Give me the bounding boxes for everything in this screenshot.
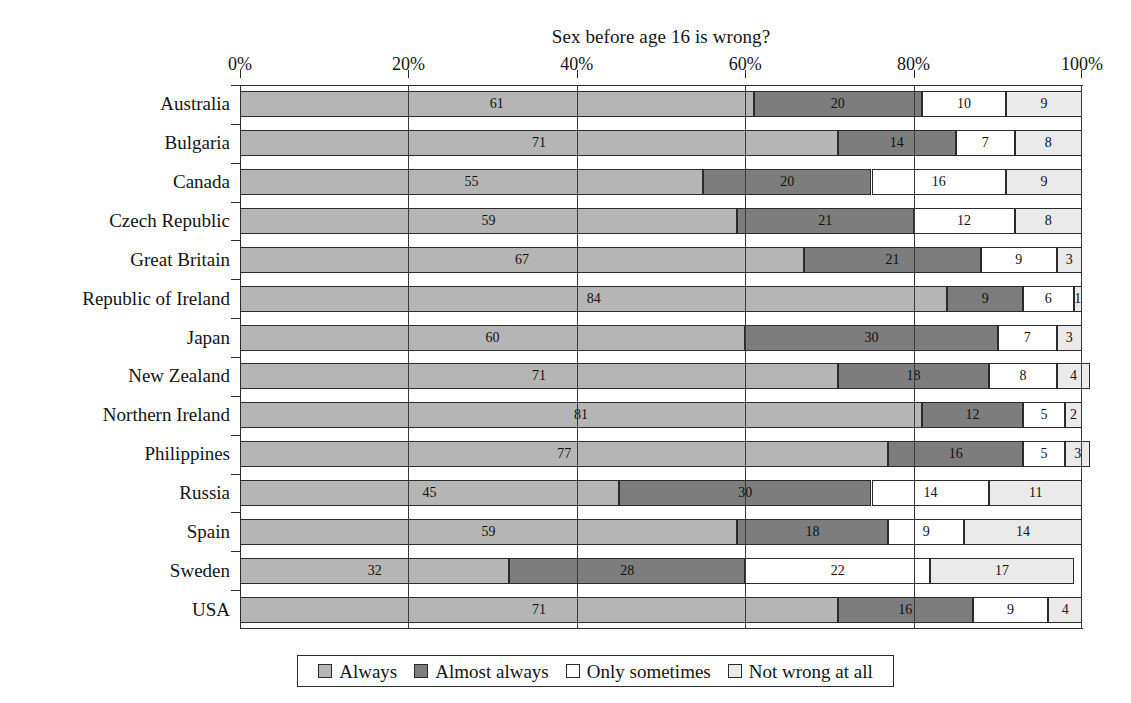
bar-segment-value: 14 [890, 136, 904, 150]
bar-segment: 16 [872, 169, 1007, 195]
bar-segment: 3 [1057, 247, 1082, 273]
bar-segment: 2 [1065, 402, 1082, 428]
category-label: Sweden [10, 558, 230, 584]
category-label: Philippines [10, 441, 230, 467]
bar-row: 711694 [240, 597, 1082, 623]
bar-row: 45301411 [240, 480, 1082, 506]
bar-segment: 9 [1006, 169, 1082, 195]
bar-segment-value: 12 [966, 408, 980, 422]
bar-row: 771653 [240, 441, 1082, 467]
bar-segment: 7 [998, 325, 1057, 351]
gridline [745, 85, 746, 629]
bar-segment-value: 55 [465, 175, 479, 189]
bar-segment-value: 59 [481, 525, 495, 539]
bar-segment-value: 5 [1041, 408, 1048, 422]
bar-segment: 61 [240, 91, 754, 117]
bar-segment-value: 21 [886, 253, 900, 267]
bar-segment-value: 8 [1045, 214, 1052, 228]
category-label: Northern Ireland [10, 402, 230, 428]
y-axis-tick-mark [231, 590, 240, 591]
bar-segment-value: 28 [620, 564, 634, 578]
legend-item[interactable]: Always [318, 662, 397, 681]
category-label: USA [10, 597, 230, 623]
bar-segment: 71 [240, 363, 838, 389]
bar-segment-value: 71 [532, 369, 546, 383]
bar-row: 603073 [240, 325, 1082, 351]
bar-segment-value: 71 [532, 136, 546, 150]
bar-segment-value: 71 [532, 603, 546, 617]
legend-item[interactable]: Not wrong at all [728, 662, 873, 681]
bar-segment: 17 [930, 558, 1073, 584]
bar-segment: 3 [1057, 325, 1082, 351]
bar-row: 6120109 [240, 91, 1082, 117]
bar-segment: 18 [737, 519, 889, 545]
bar-segment-value: 67 [515, 253, 529, 267]
bar-segment-value: 20 [780, 175, 794, 189]
bar-segment: 59 [240, 208, 737, 234]
category-label: Bulgaria [10, 130, 230, 156]
bar-segment: 14 [964, 519, 1082, 545]
bar-segment-value: 10 [957, 97, 971, 111]
bar-segment: 28 [509, 558, 745, 584]
gridline [914, 85, 915, 629]
bar-segment: 9 [981, 247, 1057, 273]
bar-row: 84961 [240, 286, 1082, 312]
x-axis-tick-mark [408, 70, 409, 78]
y-axis-tick-mark [231, 551, 240, 552]
bar-segment: 9 [1006, 91, 1082, 117]
chart-legend: AlwaysAlmost alwaysOnly sometimesNot wro… [297, 655, 894, 687]
bar-segment-value: 9 [1007, 603, 1014, 617]
category-label: Czech Republic [10, 208, 230, 234]
y-axis-tick-mark [231, 202, 240, 203]
x-axis-tick-mark [745, 70, 746, 78]
bar-row: 5918914 [240, 519, 1082, 545]
category-label: Japan [10, 325, 230, 351]
x-axis-tick-mark [577, 70, 578, 78]
bar-segment: 5 [1023, 402, 1065, 428]
bar-segment-value: 61 [490, 97, 504, 111]
y-axis-tick-mark [231, 435, 240, 436]
bar-segment-value: 14 [1016, 525, 1030, 539]
bar-segment-value: 20 [831, 97, 845, 111]
bar-segment: 8 [1015, 208, 1082, 234]
bar-segment-value: 17 [995, 564, 1009, 578]
bar-segment-value: 59 [481, 214, 495, 228]
bar-segment-value: 3 [1066, 331, 1073, 345]
category-label: Spain [10, 519, 230, 545]
legend-swatch-icon [566, 664, 580, 678]
bar-segment-value: 16 [949, 447, 963, 461]
bar-segment-value: 8 [1020, 369, 1027, 383]
bar-segment: 11 [989, 480, 1082, 506]
bar-segment: 20 [703, 169, 871, 195]
y-axis-tick-mark [231, 318, 240, 319]
plot-area: 6120109711478552016959211286721938496160… [240, 85, 1082, 629]
category-label: Republic of Ireland [10, 286, 230, 312]
bar-segment: 21 [737, 208, 914, 234]
bar-segment-value: 9 [1041, 175, 1048, 189]
bar-row: 5921128 [240, 208, 1082, 234]
bar-segment-value: 9 [1015, 253, 1022, 267]
bar-segment-value: 11 [1029, 486, 1042, 500]
bar-segment-value: 14 [923, 486, 937, 500]
bar-segment: 14 [872, 480, 990, 506]
bar-segment: 12 [914, 208, 1015, 234]
bar-segment: 77 [240, 441, 888, 467]
bar-segment: 9 [973, 597, 1049, 623]
bar-segment-value: 5 [1041, 447, 1048, 461]
bar-row: 32282217 [240, 558, 1082, 584]
bar-segment: 6 [1023, 286, 1074, 312]
bar-segment: 32 [240, 558, 509, 584]
bar-segment: 22 [745, 558, 930, 584]
y-axis-tick-mark [231, 124, 240, 125]
bar-segment-value: 7 [982, 136, 989, 150]
legend-swatch-icon [728, 664, 742, 678]
bar-segment-value: 16 [932, 175, 946, 189]
legend-item[interactable]: Almost always [414, 662, 548, 681]
bar-segment: 8 [989, 363, 1056, 389]
bar-segment: 20 [754, 91, 922, 117]
legend-item[interactable]: Only sometimes [566, 662, 711, 681]
x-axis: 0%20%40%60%80%100% [240, 54, 1082, 78]
x-axis-tick-mark [240, 70, 241, 78]
bar-segment: 67 [240, 247, 804, 273]
bar-segment: 14 [838, 130, 956, 156]
